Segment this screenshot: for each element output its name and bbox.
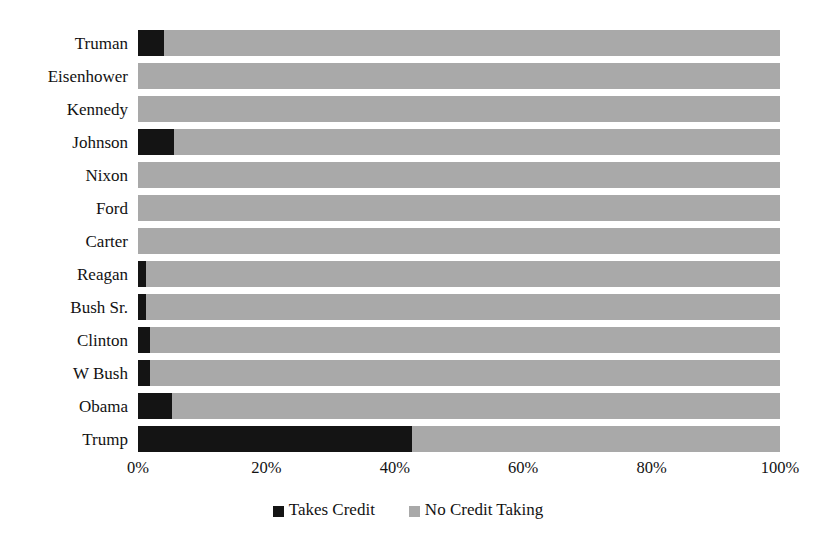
- bar-segment-takes-credit: [138, 393, 172, 419]
- legend-item[interactable]: No Credit Taking: [409, 500, 543, 520]
- legend-item[interactable]: Takes Credit: [273, 500, 375, 520]
- x-tick-label: 40%: [380, 458, 410, 478]
- plot-area: [138, 27, 780, 455]
- y-axis-label-kennedy: Kennedy: [0, 101, 128, 118]
- bar-row: [138, 426, 780, 452]
- y-axis-label-clinton: Clinton: [0, 332, 128, 349]
- bar-row: [138, 327, 780, 353]
- bar-row: [138, 360, 780, 386]
- bar-segment-no-credit-taking: [138, 228, 780, 254]
- x-tick-label: 100%: [761, 458, 800, 478]
- bar-segment-no-credit-taking: [164, 30, 780, 56]
- stacked-bar-chart: TrumanEisenhowerKennedyJohnsonNixonFordC…: [0, 0, 816, 544]
- bar-segment-no-credit-taking: [138, 195, 780, 221]
- chart-title: [0, 0, 816, 6]
- bar-segment-takes-credit: [138, 30, 164, 56]
- bar-segment-takes-credit: [138, 360, 150, 386]
- bar-row: [138, 393, 780, 419]
- bar-segment-takes-credit: [138, 129, 174, 155]
- x-tick-label: 60%: [508, 458, 538, 478]
- y-axis-label-carter: Carter: [0, 233, 128, 250]
- y-axis-label-bush-sr: Bush Sr.: [0, 299, 128, 316]
- legend-label: Takes Credit: [289, 500, 375, 520]
- bar-segment-no-credit-taking: [146, 294, 780, 320]
- y-axis-label-obama: Obama: [0, 398, 128, 415]
- bar-row: [138, 162, 780, 188]
- x-axis-tick-labels: 0%20%40%60%80%100%: [138, 458, 780, 484]
- bar-row: [138, 129, 780, 155]
- legend-swatch-icon: [273, 506, 284, 517]
- y-axis-label-ford: Ford: [0, 200, 128, 217]
- bar-segment-no-credit-taking: [150, 360, 780, 386]
- bar-row: [138, 195, 780, 221]
- bar-row: [138, 261, 780, 287]
- x-tick-label: 0%: [127, 458, 149, 478]
- bar-row: [138, 30, 780, 56]
- bar-segment-takes-credit: [138, 327, 150, 353]
- y-axis-label-trump: Trump: [0, 431, 128, 448]
- legend-label: No Credit Taking: [425, 500, 543, 520]
- y-axis-label-johnson: Johnson: [0, 134, 128, 151]
- legend-swatch-icon: [409, 506, 420, 517]
- bar-segment-takes-credit: [138, 261, 146, 287]
- bar-segment-no-credit-taking: [138, 162, 780, 188]
- bar-row: [138, 96, 780, 122]
- bar-row: [138, 228, 780, 254]
- bar-segment-no-credit-taking: [138, 63, 780, 89]
- y-axis-label-eisenhower: Eisenhower: [0, 68, 128, 85]
- bar-segment-no-credit-taking: [146, 261, 780, 287]
- bar-row: [138, 294, 780, 320]
- bar-segment-takes-credit: [138, 294, 146, 320]
- bar-segment-takes-credit: [138, 426, 412, 452]
- bar-segment-no-credit-taking: [412, 426, 780, 452]
- y-axis-label-reagan: Reagan: [0, 266, 128, 283]
- y-axis-label-truman: Truman: [0, 35, 128, 52]
- x-tick-label: 20%: [251, 458, 281, 478]
- bar-row: [138, 63, 780, 89]
- x-tick-label: 80%: [636, 458, 666, 478]
- bar-segment-no-credit-taking: [138, 96, 780, 122]
- bar-segment-no-credit-taking: [172, 393, 780, 419]
- bar-segment-no-credit-taking: [174, 129, 780, 155]
- y-axis-label-nixon: Nixon: [0, 167, 128, 184]
- y-axis-category-labels: TrumanEisenhowerKennedyJohnsonNixonFordC…: [0, 27, 128, 455]
- chart-legend: Takes CreditNo Credit Taking: [0, 500, 816, 520]
- bar-segment-no-credit-taking: [150, 327, 780, 353]
- y-axis-label-w-bush: W Bush: [0, 365, 128, 382]
